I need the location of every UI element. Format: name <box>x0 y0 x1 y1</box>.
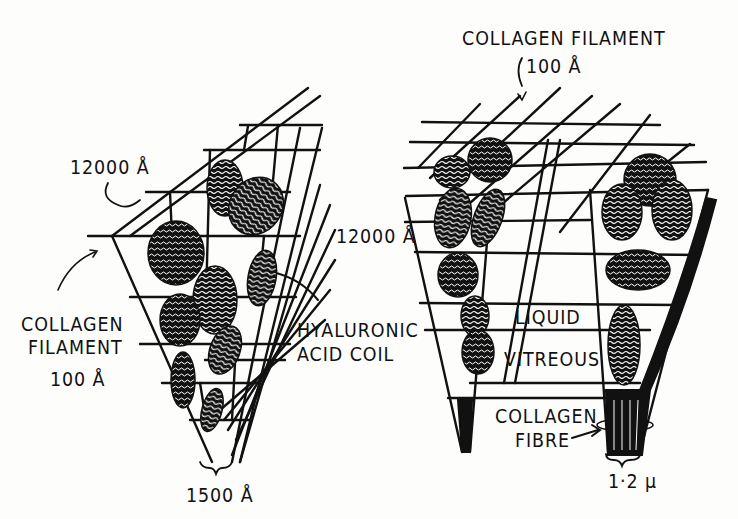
liquid-label: LIQUID <box>515 306 581 328</box>
right-side-dimension-label: 12000 Å <box>336 225 416 247</box>
left-collagen-filament-label-line2: FILAMENT <box>28 336 123 358</box>
right-collagen-filament-size: 100 Å <box>526 55 581 77</box>
left-collagen-filament-size: 100 Å <box>50 368 105 390</box>
left-bottom-dimension-label: 1500 Å <box>186 484 254 506</box>
left-top-dimension-label: 12000 Å <box>70 156 150 178</box>
hyaluronic-acid-label-line1: HYALURONIC <box>297 319 419 341</box>
collagen-fibre-label-line1: COLLAGEN <box>495 405 598 427</box>
collagen-fibre-label-line2: FIBRE <box>515 429 570 451</box>
right-collagen-filament-title: COLLAGEN FILAMENT <box>462 27 666 49</box>
diagram-line-art <box>0 0 738 519</box>
hyaluronic-acid-label-line2: ACID COIL <box>297 343 394 365</box>
fibre-width-label: 1·2 μ <box>608 470 657 492</box>
vitreous-label: VITREOUS <box>504 348 600 370</box>
left-collagen-filament-label-line1: COLLAGEN <box>21 313 124 335</box>
vitreous-structure-diagram: 12000 Å COLLAGEN FILAMENT 100 Å HYALURON… <box>0 0 738 519</box>
